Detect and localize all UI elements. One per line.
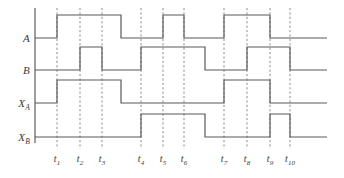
time-label-subscript: 4 — [141, 159, 145, 167]
time-label-subscript: 10 — [288, 159, 295, 167]
time-label-subscript: 3 — [102, 159, 106, 167]
time-label-t7: t7 — [221, 153, 227, 164]
time-label-t9: t9 — [267, 153, 273, 164]
time-label-t6: t6 — [181, 153, 187, 164]
waveform-A — [35, 15, 327, 38]
time-label-subscript: 6 — [184, 159, 188, 167]
signal-label-A: A — [23, 32, 30, 44]
time-label-t5: t5 — [160, 153, 166, 164]
waveform-B — [35, 47, 327, 70]
signal-label-subscript: A — [25, 103, 30, 112]
time-label-subscript: 1 — [57, 159, 61, 167]
time-label-subscript: 8 — [247, 159, 251, 167]
timing-diagram-canvas — [0, 0, 344, 178]
signal-label-text: A — [23, 32, 30, 44]
waveform-XB — [35, 114, 327, 137]
time-label-subscript: 5 — [163, 159, 167, 167]
time-label-t1: t1 — [54, 153, 60, 164]
timing-diagram-figure: ABXAXBt1t2t3t4t5t6t7t8t9t10 — [0, 0, 344, 178]
time-label-subscript: 9 — [270, 159, 274, 167]
time-label-subscript: 2 — [80, 159, 84, 167]
time-label-t10: t10 — [285, 153, 295, 164]
time-label-t4: t4 — [138, 153, 144, 164]
signal-label-XA: XA — [18, 97, 30, 109]
signal-label-XB: XB — [18, 131, 30, 143]
waveform-XA — [35, 80, 327, 103]
time-label-subscript: 7 — [224, 159, 228, 167]
signal-label-text: X — [18, 97, 25, 109]
time-label-t3: t3 — [99, 153, 105, 164]
signal-label-text: X — [18, 131, 25, 143]
signal-label-B: B — [23, 64, 30, 76]
signal-label-text: B — [23, 64, 30, 76]
time-label-t8: t8 — [244, 153, 250, 164]
time-label-t2: t2 — [77, 153, 83, 164]
signal-label-subscript: B — [25, 137, 30, 146]
